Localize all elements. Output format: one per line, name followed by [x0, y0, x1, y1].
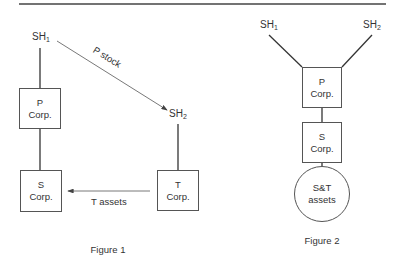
figure1-caption: Figure 1: [91, 244, 126, 255]
fig1-p-corp-box: P Corp.: [19, 88, 61, 129]
box-label: Corp.: [166, 191, 189, 203]
box-label: T: [175, 179, 181, 191]
box-label: S: [38, 179, 44, 191]
box-label: S: [319, 131, 325, 143]
fig1-sh2-label: SH2: [169, 109, 187, 120]
fig2-sh2-label: SH2: [363, 20, 381, 31]
box-label: Corp.: [310, 88, 333, 100]
fig2-st-assets-circle: S&T assets: [294, 166, 350, 222]
fig2-s-corp-box: S Corp.: [302, 122, 342, 163]
circle-label: assets: [308, 194, 335, 206]
t-assets-arrow-label: T assets: [91, 197, 127, 207]
fig2-sh1-label: SH1: [260, 20, 278, 31]
fig1-sh1-label: SH1: [32, 32, 50, 43]
box-label: Corp.: [29, 191, 52, 203]
box-label: Corp.: [310, 143, 333, 155]
box-label: Corp.: [28, 109, 51, 121]
fig2-p-corp-box: P Corp.: [302, 67, 342, 108]
fig1-t-corp-box: T Corp.: [157, 170, 199, 211]
box-label: P: [319, 76, 325, 88]
circle-label: S&T: [313, 182, 331, 194]
box-label: P: [37, 97, 43, 109]
figure2-caption: Figure 2: [305, 235, 340, 246]
fig1-s-corp-box: S Corp.: [20, 170, 62, 212]
